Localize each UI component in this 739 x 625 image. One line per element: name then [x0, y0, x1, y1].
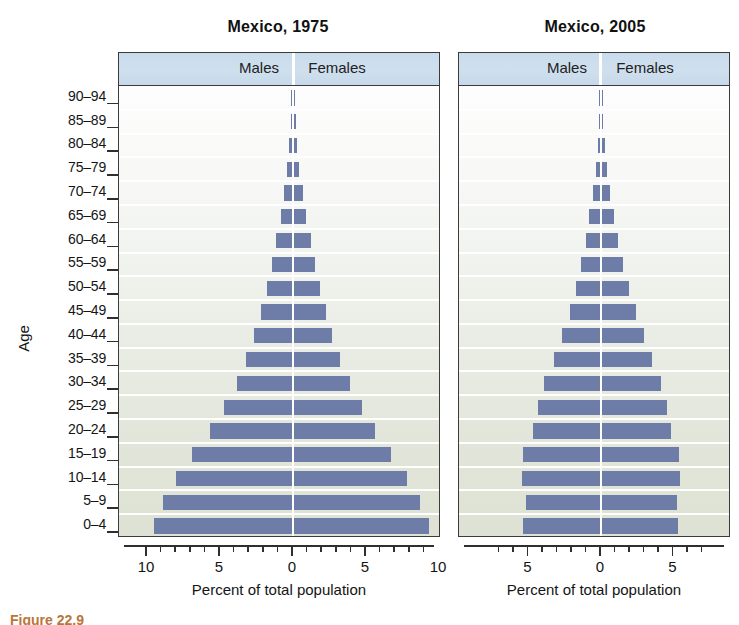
legend-males-2005: Males	[539, 59, 595, 76]
legend-females-2005: Females	[607, 59, 683, 76]
x-axis-tick	[291, 545, 293, 556]
x-axis-tick-label: 10	[418, 558, 458, 575]
row-separator	[119, 156, 439, 158]
bar-female	[293, 209, 306, 224]
x-axis-tick-label: 5	[507, 558, 547, 575]
bar-female	[601, 281, 629, 296]
row-separator	[119, 418, 439, 420]
x-axis-tick	[570, 545, 572, 552]
row-separator	[119, 466, 439, 468]
row-separator	[119, 299, 439, 301]
row-separator	[119, 252, 439, 254]
row-separator	[459, 347, 729, 349]
row-separator	[459, 133, 729, 135]
bar-female	[293, 423, 375, 438]
chart-panel-1975: Males Females	[118, 52, 440, 537]
bar-female	[293, 471, 407, 486]
row-separator	[459, 204, 729, 206]
age-group-label: 50–54	[34, 278, 106, 294]
plot-area-1975	[119, 86, 439, 536]
bar-male	[210, 423, 293, 438]
legend-females-1975: Females	[299, 59, 375, 76]
row-separator	[459, 275, 729, 277]
bar-female	[601, 209, 614, 224]
age-group-label: 10–14	[34, 469, 106, 485]
legend-divider-2005	[599, 53, 602, 85]
bar-female	[293, 352, 340, 367]
row-separator	[119, 442, 439, 444]
row-separator	[459, 370, 729, 372]
bar-female	[601, 447, 679, 462]
y-axis-tick	[107, 317, 118, 319]
bar-male	[570, 304, 601, 319]
bar-female	[601, 185, 610, 200]
x-axis-tick	[614, 545, 616, 552]
x-axis-tick	[643, 545, 645, 552]
x-axis-tick	[306, 545, 308, 552]
bar-female	[293, 328, 332, 343]
x-axis-tick	[628, 545, 630, 552]
age-group-label: 65–69	[34, 207, 106, 223]
age-group-label: 70–74	[34, 183, 106, 199]
bar-female	[601, 352, 652, 367]
x-axis-tick	[247, 545, 249, 552]
bar-male	[526, 495, 601, 510]
row-separator	[119, 275, 439, 277]
x-axis-tick	[701, 545, 703, 552]
row-separator	[119, 180, 439, 182]
legend-band-1975: Males Females	[119, 53, 439, 86]
bar-female	[601, 376, 661, 391]
x-axis-tick	[408, 545, 410, 552]
bar-female	[293, 400, 362, 415]
y-axis-tick	[107, 531, 118, 533]
bar-male	[163, 495, 293, 510]
bar-female	[293, 257, 315, 272]
y-axis-tick	[107, 269, 118, 271]
age-group-label: 20–24	[34, 421, 106, 437]
row-separator	[119, 513, 439, 515]
bar-male	[562, 328, 601, 343]
x-axis-tick	[277, 545, 279, 552]
row-separator	[459, 513, 729, 515]
row-separator	[459, 299, 729, 301]
row-separator	[119, 204, 439, 206]
y-axis-tick	[107, 222, 118, 224]
bar-male	[261, 304, 293, 319]
x-axis-tick-label: 5	[199, 558, 239, 575]
row-separator	[459, 466, 729, 468]
row-separator	[459, 109, 729, 111]
age-group-label: 55–59	[34, 254, 106, 270]
x-axis-tick	[423, 545, 425, 552]
bar-male	[267, 281, 293, 296]
row-separator	[459, 228, 729, 230]
bar-male	[237, 376, 293, 391]
x-axis-line-2005	[464, 545, 724, 547]
x-axis-tick	[204, 545, 206, 552]
y-axis-tick	[107, 341, 118, 343]
row-separator	[459, 323, 729, 325]
bar-male	[581, 257, 601, 272]
x-axis-tick	[189, 545, 191, 552]
bar-male	[544, 376, 601, 391]
y-axis-tick	[107, 460, 118, 462]
row-separator	[119, 109, 439, 111]
bar-female	[293, 281, 320, 296]
bar-male	[224, 400, 293, 415]
bar-female	[601, 423, 671, 438]
bar-male	[192, 447, 293, 462]
x-axis-tick	[335, 545, 337, 552]
y-axis-tick	[107, 484, 118, 486]
x-axis-tick	[218, 545, 220, 556]
age-group-label: 75–79	[34, 159, 106, 175]
x-axis-title-1975: Percent of total population	[118, 581, 440, 598]
bar-male	[538, 400, 601, 415]
bar-male	[276, 233, 293, 248]
x-axis-tick	[541, 545, 543, 552]
y-axis-tick	[107, 507, 118, 509]
bar-female	[293, 376, 350, 391]
row-separator	[459, 394, 729, 396]
age-group-label: 80–84	[34, 135, 106, 151]
age-group-label: 30–34	[34, 373, 106, 389]
bar-male	[254, 328, 293, 343]
row-separator	[459, 442, 729, 444]
